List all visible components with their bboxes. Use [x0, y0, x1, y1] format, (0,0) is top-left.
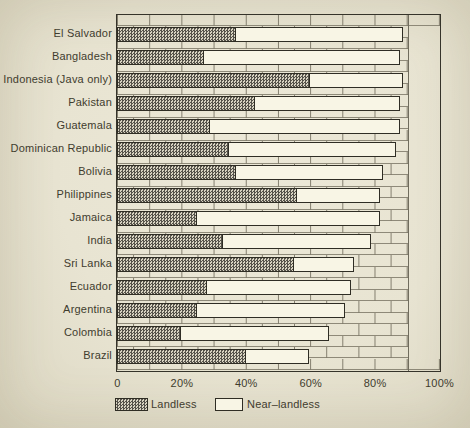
legend-swatch-near-landless [215, 398, 243, 411]
legend-label-near-landless: Near–landless [247, 398, 320, 411]
bar-dominican-republic [117, 142, 440, 157]
bar-argentina [117, 303, 440, 318]
bar-philippines [117, 188, 440, 203]
category-label-el-salvador: El Salvador [0, 26, 112, 41]
near-landless-segment [296, 188, 380, 203]
legend-swatch-landless [115, 398, 148, 411]
legend-label-landless: Landless [151, 398, 197, 411]
category-label-guatemala: Guatemala [0, 118, 112, 133]
category-label-pakistan: Pakistan [0, 95, 112, 110]
x-tick-label-20: 20% [171, 377, 194, 390]
landless-segment [117, 234, 224, 249]
category-label-india: India [0, 233, 112, 248]
bar-sri-lanka [117, 257, 440, 272]
bar-brazil [117, 349, 440, 364]
x-tick-label-0: 0 [114, 377, 120, 390]
category-label-sri-lanka: Sri Lanka [0, 256, 112, 271]
near-landless-segment [206, 280, 351, 295]
bar-colombia [117, 326, 440, 341]
landless-segment [117, 96, 256, 111]
category-label-bangladesh: Bangladesh [0, 49, 112, 64]
x-tick-label-40: 40% [235, 377, 258, 390]
near-landless-segment [209, 119, 400, 134]
landless-segment [117, 73, 311, 88]
bar-bolivia [117, 165, 440, 180]
category-label-argentina: Argentina [0, 302, 112, 317]
x-tick-label-60: 60% [299, 377, 322, 390]
landless-segment [117, 188, 298, 203]
category-label-bolivia: Bolivia [0, 164, 112, 179]
category-label-philippines: Philippines [0, 187, 112, 202]
bar-el-salvador [117, 27, 440, 42]
bar-pakistan [117, 96, 440, 111]
landless-segment [117, 349, 246, 364]
category-label-colombia: Colombia [0, 325, 112, 340]
plot-area [116, 14, 441, 372]
near-landless-segment [180, 326, 329, 341]
near-landless-segment [245, 349, 310, 364]
near-landless-segment [235, 27, 403, 42]
near-landless-segment [293, 257, 354, 272]
near-landless-segment [254, 96, 399, 111]
bar-jamaica [117, 211, 440, 226]
near-landless-segment [228, 142, 396, 157]
landless-segment [117, 50, 204, 65]
near-landless-segment [203, 50, 400, 65]
bar-ecuador [117, 280, 440, 295]
near-landless-segment [309, 73, 403, 88]
landless-segment [117, 142, 230, 157]
landless-segment [117, 27, 237, 42]
category-label-jamaica: Jamaica [0, 210, 112, 225]
category-label-brazil: Brazil [0, 348, 112, 363]
landless-segment [117, 303, 198, 318]
landless-segment [117, 280, 207, 295]
near-landless-segment [196, 303, 345, 318]
near-landless-segment [196, 211, 380, 226]
landless-segment [117, 326, 182, 341]
category-label-dominican-republic: Dominican Republic [0, 141, 112, 156]
bar-guatemala [117, 119, 440, 134]
bar-bangladesh [117, 50, 440, 65]
bar-india [117, 234, 440, 249]
x-tick-label-100: 100% [425, 377, 454, 390]
landless-segment [117, 211, 198, 226]
landless-segment [117, 257, 295, 272]
scanned-bar-chart-figure: El SalvadorBangladeshIndonesia (Java onl… [0, 0, 470, 428]
near-landless-segment [235, 165, 384, 180]
landless-segment [117, 119, 211, 134]
brick-row [117, 15, 440, 26]
near-landless-segment [222, 234, 371, 249]
category-label-indonesia-java-only: Indonesia (Java only) [0, 72, 112, 87]
category-label-ecuador: Ecuador [0, 279, 112, 294]
landless-segment [117, 165, 237, 180]
x-tick-label-80: 80% [364, 377, 387, 390]
bar-indonesia-java-only [117, 73, 440, 88]
